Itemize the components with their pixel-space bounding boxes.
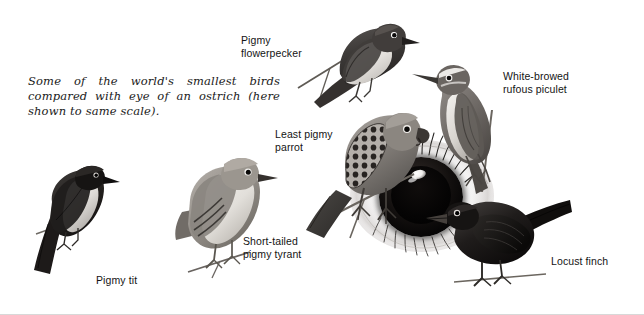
plate-caption: Some of the world's smallest birds compa… <box>28 74 280 119</box>
label-locust-finch: Locust finch <box>551 255 608 268</box>
label-white-browed-rufous-piculet: White-browed rufous piculet <box>503 70 569 95</box>
label-least-pigmy-parrot: Least pigmy parrot <box>275 128 333 153</box>
bird-pigmy-tit <box>30 162 126 280</box>
bird-least-pigmy-parrot <box>306 98 432 244</box>
label-short-tailed-pigmy-tyrant: Short-tailed pigmy tyrant <box>243 235 301 260</box>
label-pigmy-tit: Pigmy tit <box>96 274 137 287</box>
bird-short-tailed-pigmy-tyrant <box>172 148 282 280</box>
bird-locust-finch <box>438 186 574 298</box>
illustration-plate: Some of the world's smallest birds compa… <box>0 0 644 315</box>
label-pigmy-flowerpecker: Pigmy flowerpecker <box>241 34 302 59</box>
